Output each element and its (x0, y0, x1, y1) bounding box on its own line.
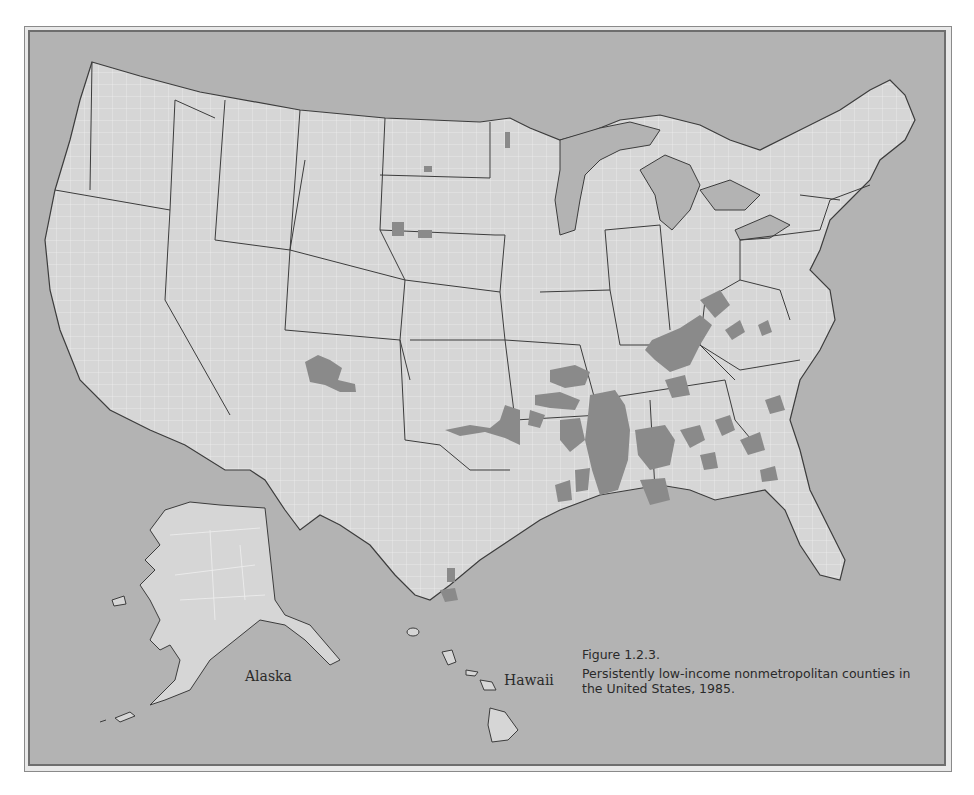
figure-number: Figure 1.2.3. (582, 647, 922, 662)
hawaii-label: Hawaii (504, 672, 554, 688)
alaska-label: Alaska (245, 668, 292, 684)
hawaii-islands (407, 628, 518, 742)
alaska-landmass (140, 502, 340, 705)
aleutian-islands (100, 596, 135, 722)
figure-caption-text: Persistently low-income nonmetropolitan … (582, 666, 922, 696)
figure-caption: Figure 1.2.3. Persistently low-income no… (582, 647, 922, 696)
